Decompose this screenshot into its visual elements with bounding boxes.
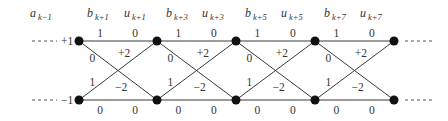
edge-label: 0 [175,104,181,116]
edge-label: 0 [168,52,174,64]
header-b-1: bk+1 [87,6,109,22]
edge-label: 0 [290,27,296,39]
edge-label: 0 [132,27,138,39]
edge-label: 0 [369,27,375,39]
header-b-3: bk+3 [166,6,188,22]
header-u-4: uk+3 [202,6,224,22]
trellis-diagram: ak−1bk+1uk+1bk+3uk+3bk+5uk+5bk+7uk+7 +1−… [0,0,448,121]
state-node [75,37,84,46]
edge-label: −2 [115,81,127,93]
edge-label: 0 [247,52,253,64]
edge-label: 0 [254,104,260,116]
edge-label: +2 [118,47,130,59]
header-a-0: ak−1 [30,6,52,22]
column-headers: ak−1bk+1uk+1bk+3uk+3bk+5uk+5bk+7uk+7 [30,6,383,22]
edge-label: 0 [132,104,138,116]
edge-label: 1 [254,27,260,39]
edge-label: 0 [211,104,217,116]
edge-label: +2 [355,47,367,59]
edge-label: 0 [290,104,296,116]
edge-label: −2 [273,81,285,93]
edge-label: 0 [333,104,339,116]
header-b-7: bk+7 [324,6,347,22]
edge-label: 0 [326,52,332,64]
edge-label: 0 [89,52,95,64]
edge-label: 0 [97,104,103,116]
state-label: −1 [61,94,73,106]
state-node [232,96,241,105]
edge-label: 0 [211,27,217,39]
state-node [311,37,320,46]
edge-label: 1 [333,27,339,39]
state-labels: +1−1 [32,35,432,106]
edge-label: 0 [369,104,375,116]
edge-label: 1 [97,27,103,39]
edge-label: −2 [352,81,364,93]
edge-label: 1 [175,27,181,39]
header-u-8: uk+7 [360,6,383,22]
state-node [153,96,162,105]
header-u-6: uk+5 [281,6,303,22]
header-b-5: bk+5 [245,6,267,22]
edge-label: 1 [326,76,332,88]
state-node [232,37,241,46]
state-node [153,37,162,46]
header-u-2: uk+1 [124,6,146,22]
state-node [75,96,84,105]
edge-label: +2 [197,47,209,59]
edge-label: −2 [194,81,206,93]
edge-label: 1 [247,76,253,88]
edge-label: +2 [276,47,288,59]
edge-label: 1 [89,76,95,88]
edge-label: 1 [168,76,174,88]
state-label: +1 [61,35,73,47]
state-node [390,96,399,105]
state-node [311,96,320,105]
state-node [390,37,399,46]
